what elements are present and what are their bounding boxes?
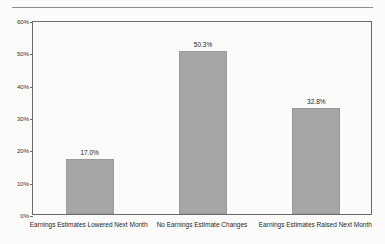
bar[interactable] <box>66 159 114 214</box>
x-axis-category-label: Earnings Estimates Lowered Next Month <box>30 221 148 228</box>
x-axis-category-label: No Earnings Estimate Changes <box>157 221 248 228</box>
y-axis-tick-label: 30% <box>17 116 33 122</box>
y-axis-tick-label: 20% <box>17 148 33 154</box>
bar-value-label: 17.0% <box>80 149 98 156</box>
y-axis-tick-label: 10% <box>17 181 33 187</box>
bar-value-label: 32.8% <box>307 98 325 105</box>
bar[interactable] <box>292 108 340 214</box>
bar-value-label: 50.3% <box>194 41 212 48</box>
y-axis-tick-label: 40% <box>17 84 33 90</box>
top-divider-rule <box>12 7 373 8</box>
bar-chart-figure: 0%10%20%30%40%50%60% 17.0%50.3%32.8% Ear… <box>0 0 385 244</box>
y-axis-tick-label: 60% <box>17 19 33 25</box>
y-axis-tick-label: 50% <box>17 51 33 57</box>
plot-area: 0%10%20%30%40%50%60% 17.0%50.3%32.8% <box>32 21 372 215</box>
y-axis-tick-label: 0% <box>20 213 33 219</box>
bar[interactable] <box>179 51 227 214</box>
bar-series: 17.0%50.3%32.8% <box>33 22 371 214</box>
x-axis-category-label: Earnings Estimates Raised Next Month <box>259 221 372 228</box>
